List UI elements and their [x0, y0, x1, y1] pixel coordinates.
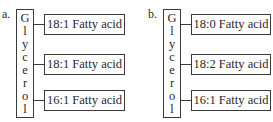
glycerol-backbone: G l y c e r o l — [163, 9, 181, 118]
glycerol-letter: o — [169, 90, 175, 102]
glycerol-letter: c — [169, 51, 175, 63]
glycerol-letter: l — [170, 25, 173, 37]
ester-bond-line — [181, 100, 191, 101]
panel-label: b. — [148, 8, 157, 20]
glycerol-letter: e — [169, 64, 175, 76]
triglyceride-panel-b: b. G l y c e r o l 18:0 Fatty acid 18:2 … — [0, 0, 273, 122]
glycerol-letter: l — [170, 103, 173, 115]
fatty-acid-box: 16:1 Fatty acid — [191, 90, 271, 111]
ester-bond-line — [181, 24, 191, 25]
glycerol-letter: y — [169, 38, 175, 50]
glycerol-letter: r — [170, 77, 174, 89]
fatty-acid-box: 18:2 Fatty acid — [191, 54, 271, 75]
glycerol-letter: G — [167, 12, 176, 24]
ester-bond-line — [181, 64, 191, 65]
fatty-acid-box: 18:0 Fatty acid — [191, 14, 271, 35]
